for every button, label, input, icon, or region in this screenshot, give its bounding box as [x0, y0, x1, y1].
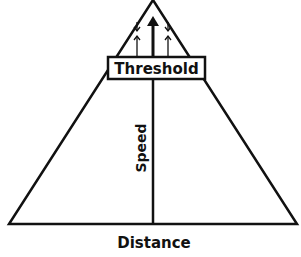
left-converging-arrows-icon	[134, 22, 140, 57]
right-converging-arrows-icon	[165, 22, 171, 57]
speed-axis-label: Speed	[133, 123, 149, 172]
threshold-label: Threshold	[114, 60, 198, 78]
threshold-box: Threshold	[108, 57, 205, 79]
center-up-arrow-icon	[147, 16, 159, 57]
pyramid-diagram: Threshold Speed Distance	[0, 0, 301, 257]
distance-axis-label: Distance	[117, 234, 191, 252]
